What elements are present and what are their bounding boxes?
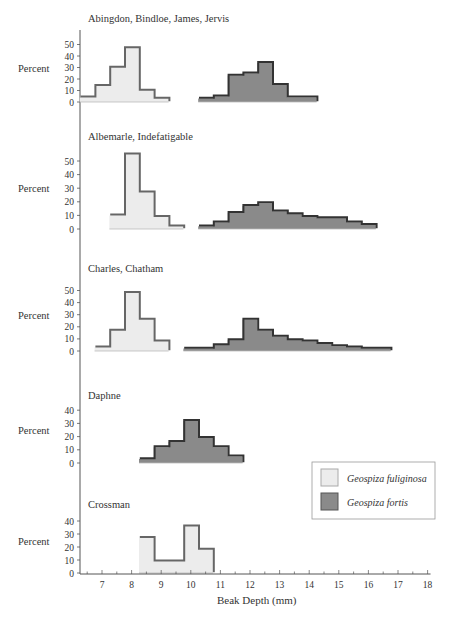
y-tick-label: 20 [65,322,75,332]
y-tick-label: 0 [69,225,74,235]
y-axis-label: Percent [18,310,50,321]
y-tick-label: 50 [65,40,75,50]
x-tick-label: 14 [304,580,314,590]
histogram-fuliginosa [80,47,170,102]
panel-title: Crossman [88,499,131,510]
histogram-area [198,203,376,229]
y-tick-label: 50 [65,286,75,296]
x-tick-label: 15 [334,580,344,590]
x-tick-label: 9 [159,580,164,590]
legend-label-fuliginosa: Geospiza fuliginosa [347,473,427,484]
panel-title: Charles, Chatham [88,263,163,274]
x-tick-label: 12 [245,580,255,590]
panel-4: Crossman010203040Percent [18,499,214,579]
histogram-fortis [198,62,317,102]
x-tick-label: 18 [423,580,433,590]
panel-1: Albemarle, Indefatigable01020304050Perce… [18,131,377,235]
x-axis-label: Beak Depth (mm) [217,594,297,607]
y-tick-label: 30 [65,184,75,194]
y-tick-label: 0 [69,569,74,579]
y-tick-label: 40 [65,170,75,180]
x-tick-label: 10 [186,580,196,590]
y-tick-label: 10 [65,211,75,221]
x-tick-label: 13 [275,580,285,590]
y-tick-label: 20 [65,432,75,442]
histogram-fuliginosa [95,292,170,351]
panel-title: Daphne [88,390,121,401]
histogram-area [95,293,169,351]
y-tick-label: 30 [65,530,75,540]
beak-depth-histogram-chart: Abingdon, Bindloe, James, Jervis01020304… [0,0,454,620]
histogram-fortis [183,319,391,351]
panel-0: Abingdon, Bindloe, James, Jervis01020304… [18,13,317,108]
y-axis-label: Percent [18,63,50,74]
y-tick-label: 10 [65,445,75,455]
legend-swatch-fortis [321,493,338,510]
x-tick-label: 11 [216,580,225,590]
y-tick-label: 40 [65,406,75,416]
y-tick-label: 10 [65,556,75,566]
panel-title: Albemarle, Indefatigable [88,131,193,142]
y-tick-label: 20 [65,543,75,553]
y-tick-label: 50 [65,157,75,167]
y-tick-label: 40 [65,298,75,308]
histogram-fuliginosa [109,153,184,229]
y-tick-label: 0 [69,98,74,108]
y-tick-label: 40 [65,517,75,527]
y-tick-label: 30 [65,63,75,73]
y-tick-label: 0 [69,347,74,357]
panel-title: Abingdon, Bindloe, James, Jervis [88,13,229,24]
y-tick-label: 30 [65,419,75,429]
x-tick-label: 7 [100,580,105,590]
y-tick-label: 20 [65,75,75,85]
y-axis-label: Percent [18,183,50,194]
x-tick-label: 17 [393,580,403,590]
legend-swatch-fuliginosa [321,469,338,486]
legend-label-fortis: Geospiza fortis [347,497,408,508]
x-tick-label: 16 [364,580,374,590]
histogram-fuliginosa [139,525,214,573]
x-axis: 789101112131415161718 [80,570,433,590]
y-tick-label: 40 [65,52,75,62]
panel-2: Charles, Chatham01020304050Percent [18,263,391,357]
y-tick-label: 10 [65,86,75,96]
histogram-fortis [198,202,376,229]
legend: Geospiza fuliginosa Geospiza fortis [312,462,435,519]
panel-3: Daphne010203040Percent [18,390,243,469]
histogram-fortis [139,420,243,463]
y-tick-label: 30 [65,310,75,320]
y-tick-label: 10 [65,334,75,344]
y-tick-label: 20 [65,197,75,207]
y-axis-label: Percent [18,425,50,436]
y-tick-label: 0 [69,459,74,469]
x-tick-label: 8 [129,580,134,590]
y-axis-label: Percent [18,536,50,547]
